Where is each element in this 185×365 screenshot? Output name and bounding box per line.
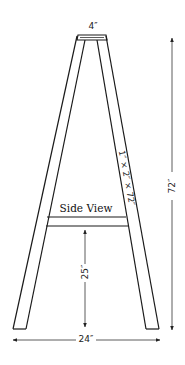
side-view-title: Side View <box>52 202 120 214</box>
crossbar <box>46 217 128 226</box>
left-leg <box>13 36 85 329</box>
top-width-label: 4″ <box>82 21 104 31</box>
height-label: 72″ <box>167 172 177 200</box>
a-frame-side-view-diagram <box>0 0 185 365</box>
base-width-label: 24″ <box>74 334 98 344</box>
top-block <box>77 35 107 40</box>
crossbar-height-label: 25″ <box>80 258 90 286</box>
